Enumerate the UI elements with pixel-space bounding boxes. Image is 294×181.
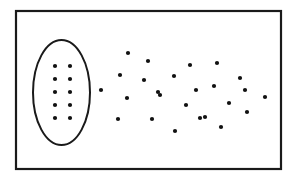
scatter-dot-7 (116, 117, 120, 121)
scatter-dot-23 (184, 103, 188, 107)
scatter-dot-22 (156, 90, 160, 94)
cluster-dot-1 (53, 64, 57, 68)
scatter-dot-17 (212, 84, 216, 88)
cluster-dot-7 (53, 103, 57, 107)
scatter-dot-11 (188, 63, 192, 67)
scatter-dot-24 (198, 116, 202, 120)
scatter-dot-8 (150, 117, 154, 121)
scatter-dot-6 (125, 96, 129, 100)
scatter-dot-5 (142, 78, 146, 82)
scatter-dot-16 (238, 76, 242, 80)
scatter-dot-1 (99, 88, 103, 92)
scatter-dot-15 (215, 61, 219, 65)
scatter-dot-21 (263, 95, 267, 99)
scatter-dot-12 (194, 88, 198, 92)
cluster-dot-3 (53, 77, 57, 81)
scatter-dot-13 (173, 129, 177, 133)
cluster-dot-4 (68, 77, 72, 81)
figure-canvas (0, 0, 294, 181)
scatter-dot-14 (203, 115, 207, 119)
scatter-dot-4 (118, 73, 122, 77)
scatter-dot-18 (227, 101, 231, 105)
cluster-dot-9 (53, 116, 57, 120)
cluster-dot-8 (68, 103, 72, 107)
scatter-dot-3 (146, 59, 150, 63)
cluster-dot-6 (68, 90, 72, 94)
scatter-dot-19 (245, 110, 249, 114)
scatter-dot-10 (172, 74, 176, 78)
scatter-dot-25 (243, 88, 247, 92)
scatter-dot-2 (126, 51, 130, 55)
outer-rectangle-frame (16, 11, 281, 169)
scatter-dot-20 (219, 125, 223, 129)
cluster-dot-10 (68, 116, 72, 120)
cluster-dot-2 (68, 64, 72, 68)
cluster-dot-5 (53, 90, 57, 94)
diagram-svg (0, 0, 294, 181)
